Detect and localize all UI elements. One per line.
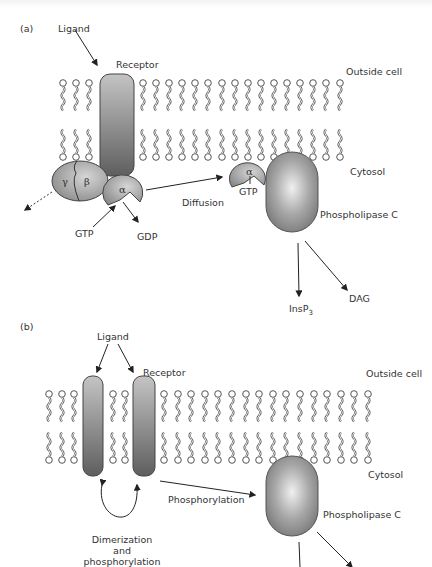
phospholipase-c-label-a: Phospholipase C	[320, 209, 398, 220]
cytosol-label-b: Cytosol	[368, 469, 403, 480]
gtp-bound-label: GTP	[239, 186, 258, 197]
phospholipase-c-a	[266, 152, 318, 232]
panel-b-receptor-left	[83, 376, 103, 476]
phospholipase-c-label-b: Phospholipase C	[323, 509, 401, 520]
panel-a-label: (a)	[20, 23, 33, 34]
cytosol-label-a: Cytosol	[350, 166, 385, 177]
phosphorylation-label: Phosphorylation	[168, 494, 245, 505]
dimerization-label: Dimerization and phosphorylation	[72, 534, 172, 567]
alpha-diffused-label: α	[246, 166, 253, 177]
panel-b-receptor-right	[133, 376, 155, 476]
diagram-canvas: (a) Ligand Receptor Outside cell Cytosol…	[0, 0, 432, 567]
receptor-label-b: Receptor	[143, 367, 186, 378]
outside-cell-label-a: Outside cell	[346, 66, 402, 77]
outside-cell-label-b: Outside cell	[366, 368, 422, 379]
dag-label: DAG	[349, 293, 370, 304]
panel-b-label: (b)	[20, 321, 33, 332]
diagram-graphics	[0, 0, 432, 567]
ligand-label-a: Ligand	[58, 23, 90, 34]
phospholipase-c-b	[266, 456, 318, 536]
receptor-label-a: Receptor	[116, 59, 159, 70]
gtp-label: GTP	[75, 228, 94, 239]
gdp-label: GDP	[137, 231, 157, 242]
gamma-label: γ	[62, 176, 68, 187]
g-beta-gamma-subunit	[52, 161, 108, 201]
diffusion-label: Diffusion	[182, 197, 224, 208]
ligand-arrow-a	[75, 30, 97, 65]
panel-a-receptor	[100, 74, 134, 176]
alpha-label: α	[119, 184, 126, 195]
ligand-label-b: Ligand	[97, 331, 129, 342]
insp3-label: InsP3	[289, 303, 313, 319]
beta-label: β	[84, 176, 90, 187]
